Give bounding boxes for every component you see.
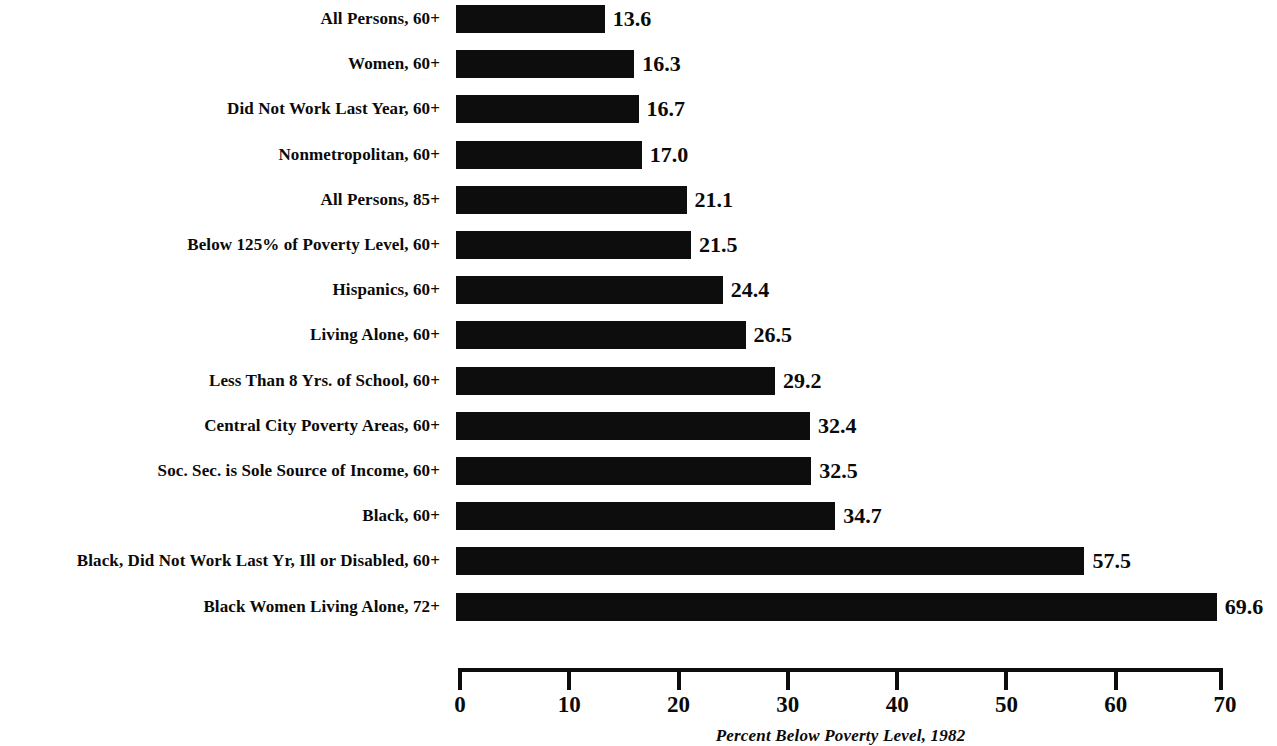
bar-category-label: All Persons, 85+ — [321, 186, 440, 214]
bar-row: Central City Poverty Areas, 60+32.4 — [0, 412, 1277, 440]
bar-value-label: 32.4 — [818, 412, 857, 440]
x-axis-tick — [786, 668, 790, 690]
bar-category-label: Below 125% of Poverty Level, 60+ — [187, 231, 440, 259]
x-axis-tick-label: 10 — [539, 692, 599, 718]
bar — [456, 141, 642, 169]
bar-category-label: Living Alone, 60+ — [310, 321, 440, 349]
bar-value-label: 34.7 — [843, 502, 882, 530]
x-axis-tick-label: 40 — [867, 692, 927, 718]
bar-row: Below 125% of Poverty Level, 60+21.5 — [0, 231, 1277, 259]
bar-row: Women, 60+16.3 — [0, 50, 1277, 78]
bar-category-label: Central City Poverty Areas, 60+ — [204, 412, 440, 440]
x-axis-tick — [1004, 668, 1008, 690]
x-axis-tick-label: 70 — [1195, 692, 1255, 718]
x-axis-tick — [567, 668, 571, 690]
x-axis: Percent Below Poverty Level, 1982 010203… — [0, 664, 1277, 744]
bar — [456, 231, 691, 259]
bar-row: Hispanics, 60+24.4 — [0, 276, 1277, 304]
bar-category-label: Black Women Living Alone, 72+ — [203, 593, 440, 621]
x-axis-tick — [895, 668, 899, 690]
x-axis-line — [458, 668, 1223, 672]
bar-row: Less Than 8 Yrs. of School, 60+29.2 — [0, 367, 1277, 395]
bar-row: Black Women Living Alone, 72+69.6 — [0, 593, 1277, 621]
bar-category-label: Hispanics, 60+ — [333, 276, 440, 304]
bar-category-label: All Persons, 60+ — [321, 5, 440, 33]
bar-row: Black, 60+34.7 — [0, 502, 1277, 530]
x-axis-tick — [1219, 668, 1223, 690]
bar-category-label: Women, 60+ — [348, 50, 440, 78]
bar-value-label: 13.6 — [613, 5, 652, 33]
bar — [456, 5, 605, 33]
bar-row: Living Alone, 60+26.5 — [0, 321, 1277, 349]
bar-row: Black, Did Not Work Last Yr, Ill or Disa… — [0, 547, 1277, 575]
bar-value-label: 21.5 — [699, 231, 738, 259]
bar-value-label: 16.3 — [642, 50, 681, 78]
bar-value-label: 21.1 — [695, 186, 734, 214]
bar-value-label: 24.4 — [731, 276, 770, 304]
bar-category-label: Less Than 8 Yrs. of School, 60+ — [209, 367, 440, 395]
bar — [456, 367, 775, 395]
x-axis-caption: Percent Below Poverty Level, 1982 — [458, 726, 1223, 746]
bar-category-label: Black, Did Not Work Last Yr, Ill or Disa… — [77, 547, 440, 575]
x-axis-tick — [677, 668, 681, 690]
bar-category-label: Black, 60+ — [362, 502, 440, 530]
bar-value-label: 29.2 — [783, 367, 822, 395]
bar — [456, 95, 639, 123]
bar-row: All Persons, 85+21.1 — [0, 186, 1277, 214]
x-axis-tick-label: 30 — [758, 692, 818, 718]
x-axis-tick — [458, 668, 462, 690]
bar — [456, 412, 810, 440]
bar-row: All Persons, 60+13.6 — [0, 5, 1277, 33]
bar-row: Did Not Work Last Year, 60+16.7 — [0, 95, 1277, 123]
bar-row: Nonmetropolitan, 60+17.0 — [0, 141, 1277, 169]
bar — [456, 593, 1217, 621]
x-axis-tick-label: 50 — [976, 692, 1036, 718]
bar-value-label: 57.5 — [1092, 547, 1131, 575]
x-axis-tick-label: 60 — [1086, 692, 1146, 718]
bar-category-label: Did Not Work Last Year, 60+ — [227, 95, 440, 123]
bar — [456, 502, 835, 530]
bar-value-label: 32.5 — [819, 457, 858, 485]
bar-row: Soc. Sec. is Sole Source of Income, 60+3… — [0, 457, 1277, 485]
bar — [456, 547, 1084, 575]
bar — [456, 186, 687, 214]
x-axis-tick-label: 20 — [649, 692, 709, 718]
plot-area: All Persons, 60+13.6Women, 60+16.3Did No… — [0, 0, 1277, 648]
bar-value-label: 16.7 — [647, 95, 686, 123]
bar — [456, 457, 811, 485]
bar-category-label: Nonmetropolitan, 60+ — [278, 141, 440, 169]
bar — [456, 50, 634, 78]
bar-value-label: 69.6 — [1225, 593, 1264, 621]
bar — [456, 276, 723, 304]
bar-value-label: 26.5 — [754, 321, 793, 349]
bar-value-label: 17.0 — [650, 141, 689, 169]
bar-category-label: Soc. Sec. is Sole Source of Income, 60+ — [158, 457, 440, 485]
x-axis-tick-label: 0 — [430, 692, 490, 718]
bar — [456, 321, 746, 349]
x-axis-tick — [1114, 668, 1118, 690]
